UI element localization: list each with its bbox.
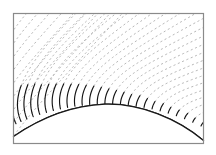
figure-canvas	[0, 0, 216, 155]
figure-root	[0, 0, 216, 155]
